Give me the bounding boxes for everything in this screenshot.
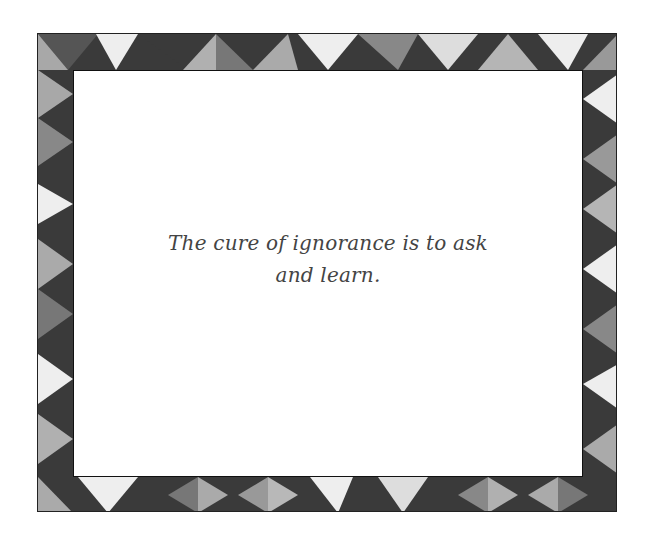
quote-line-2: and learn.	[74, 259, 582, 291]
quote-line-1: The cure of ignorance is to ask	[74, 227, 582, 259]
quote-card: The cure of ignorance is to ask and lear…	[73, 70, 583, 477]
quote-text: The cure of ignorance is to ask and lear…	[74, 227, 582, 291]
decorative-border-frame: The cure of ignorance is to ask and lear…	[37, 33, 617, 512]
